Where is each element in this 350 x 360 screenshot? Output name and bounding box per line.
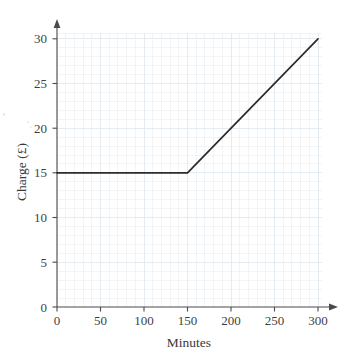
y-tick-label-5: 5 — [41, 255, 48, 270]
line-chart: 0 5 10 15 20 25 30 0 50 100 150 200 250 … — [0, 0, 350, 360]
x-tick-label-100: 100 — [134, 313, 154, 328]
x-tick-label-0: 0 — [54, 313, 61, 328]
chart-background — [0, 0, 350, 360]
x-tick-label-50: 50 — [94, 313, 107, 328]
x-tick-label-250: 250 — [265, 313, 285, 328]
x-tick-label-300: 300 — [308, 313, 328, 328]
y-tick-label-30: 30 — [34, 31, 47, 46]
chart-figure: 0 5 10 15 20 25 30 0 50 100 150 200 250 … — [0, 0, 350, 360]
y-tick-label-15: 15 — [34, 165, 47, 180]
y-tick-label-10: 10 — [34, 210, 47, 225]
x-axis-title: Minutes — [167, 335, 211, 350]
y-tick-label-0: 0 — [41, 300, 48, 315]
x-tick-label-150: 150 — [178, 313, 198, 328]
x-tick-label-200: 200 — [221, 313, 241, 328]
y-axis-title: Charge (£) — [14, 143, 29, 201]
y-tick-label-20: 20 — [34, 121, 47, 136]
y-tick-label-25: 25 — [34, 76, 47, 91]
